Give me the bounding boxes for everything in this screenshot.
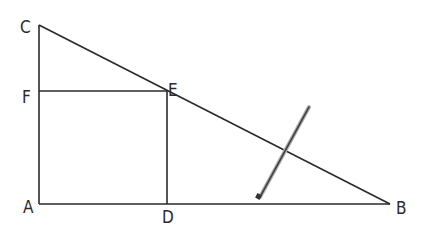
label-e: E bbox=[168, 80, 178, 100]
pencil-arrow bbox=[255, 107, 309, 200]
label-c: C bbox=[20, 17, 31, 37]
label-d: D bbox=[162, 207, 174, 227]
label-a: A bbox=[23, 197, 34, 217]
label-b: B bbox=[396, 198, 407, 218]
segment-cb bbox=[39, 25, 390, 204]
label-f: F bbox=[22, 87, 31, 107]
geometry-diagram: C F E A D B bbox=[0, 0, 427, 244]
